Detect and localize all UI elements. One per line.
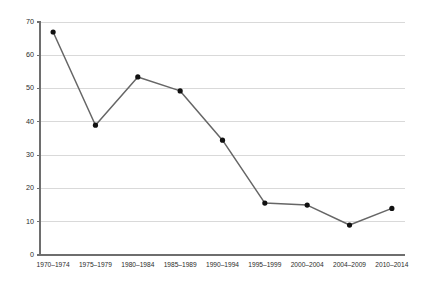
x-tick-label: 1980–1984 — [121, 261, 154, 268]
y-axis-tick-labels: 010203040506070 — [26, 17, 34, 259]
data-point-markers — [51, 29, 395, 227]
data-series-line — [53, 32, 392, 225]
data-point — [51, 29, 56, 34]
data-point — [389, 206, 394, 211]
data-point — [305, 202, 310, 207]
x-tick-label: 1985–1989 — [164, 261, 197, 268]
chart-canvas: 010203040506070 1970–19741975–19791980–1… — [0, 0, 423, 288]
y-tick-label: 60 — [26, 50, 34, 59]
x-tick-label: 2000–2004 — [291, 261, 324, 268]
data-point — [220, 138, 225, 143]
y-tick-label: 50 — [26, 83, 34, 92]
data-point — [93, 123, 98, 128]
line-chart: 010203040506070 1970–19741975–19791980–1… — [0, 0, 423, 288]
y-tick-label: 0 — [30, 250, 34, 259]
y-tick-label: 40 — [26, 117, 34, 126]
y-tick-label: 20 — [26, 183, 34, 192]
x-axis-tick-labels: 1970–19741975–19791980–19841985–19891990… — [37, 261, 409, 268]
x-tick-label: 2010–2014 — [375, 261, 408, 268]
y-tick-label: 30 — [26, 150, 34, 159]
data-point — [262, 200, 267, 205]
data-point — [135, 74, 140, 79]
y-tick-label: 70 — [26, 17, 34, 26]
y-tick-label: 10 — [26, 217, 34, 226]
x-tick-label: 1970–1974 — [37, 261, 70, 268]
x-tick-label: 2004–2009 — [333, 261, 366, 268]
data-point — [347, 222, 352, 227]
x-tick-label: 1990–1994 — [206, 261, 239, 268]
x-tick-label: 1975–1979 — [79, 261, 112, 268]
x-tick-label: 1995–1999 — [248, 261, 281, 268]
data-point — [178, 88, 183, 93]
